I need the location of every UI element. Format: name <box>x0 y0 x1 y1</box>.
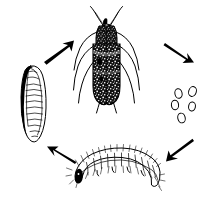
larva-body <box>75 148 160 186</box>
moth-thorax <box>96 26 117 46</box>
moth-wings <box>93 44 120 105</box>
larva-head <box>75 169 83 184</box>
arrow-adult-to-eggs <box>164 43 195 63</box>
stage-adult-moth <box>74 7 140 114</box>
arrow-larva-to-pupa <box>47 147 77 165</box>
life-cycle-canvas <box>0 0 214 201</box>
stage-pupa <box>21 66 46 142</box>
stage-larva <box>66 145 165 191</box>
arrow-pupa-to-adult <box>44 41 74 65</box>
stage-eggs <box>171 86 198 124</box>
larva-bristles <box>66 145 165 191</box>
arrow-eggs-to-larva <box>166 139 194 162</box>
moth-life-cycle-figure: Moth life cycle <box>0 0 214 201</box>
